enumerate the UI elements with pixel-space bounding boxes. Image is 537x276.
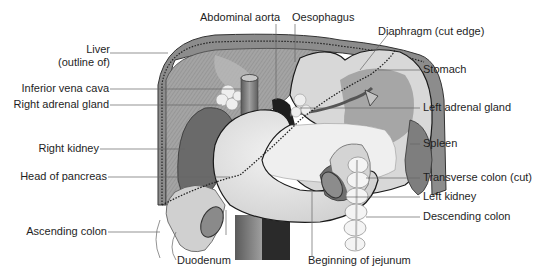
- label-liver: Liver (outline of): [40, 43, 110, 69]
- label-right-adrenal-gland: Right adrenal gland: [0, 98, 109, 111]
- label-abdominal-aorta: Abdominal aorta: [200, 11, 280, 24]
- label-diaphragm-cut-edge: Diaphragm (cut edge): [378, 25, 484, 38]
- label-liver-line2: (outline of): [40, 56, 110, 69]
- label-duodenum: Duodenum: [177, 254, 231, 267]
- label-descending-colon: Descending colon: [423, 210, 510, 223]
- label-spleen: Spleen: [423, 137, 457, 150]
- label-right-kidney: Right kidney: [0, 142, 99, 155]
- label-left-adrenal-gland: Left adrenal gland: [423, 101, 511, 114]
- anatomy-diagram: Liver (outline of) Inferior vena cava Ri…: [0, 0, 537, 276]
- label-ascending-colon: Ascending colon: [0, 225, 107, 238]
- label-transverse-colon: Transverse colon (cut): [423, 171, 532, 184]
- label-inferior-vena-cava: Inferior vena cava: [0, 82, 109, 95]
- label-liver-line1: Liver: [40, 43, 110, 56]
- label-stomach: Stomach: [423, 63, 466, 76]
- label-head-of-pancreas: Head of pancreas: [0, 170, 107, 183]
- label-beginning-of-jejunum: Beginning of jejunum: [308, 254, 411, 267]
- label-left-kidney: Left kidney: [423, 190, 476, 203]
- label-oesophagus: Oesophagus: [292, 11, 354, 24]
